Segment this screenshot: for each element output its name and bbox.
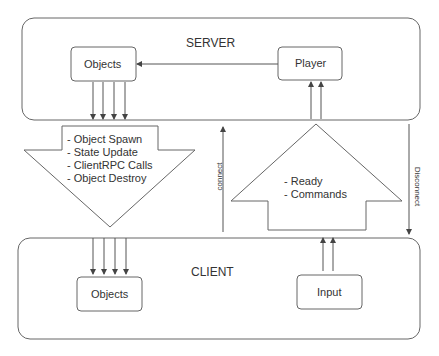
- server-player-label: Player: [295, 57, 326, 69]
- down-item: - Object Spawn: [67, 133, 153, 146]
- server-label: SERVER: [186, 36, 235, 50]
- client-objects-label: Objects: [91, 288, 128, 300]
- up-item: - Ready: [284, 175, 347, 188]
- up-arrow-list: - Ready - Commands: [284, 175, 347, 201]
- down-arrow-list: - Object Spawn - State Update - ClientRP…: [67, 133, 153, 185]
- down-item: - Object Destroy: [67, 172, 153, 185]
- down-item: - ClientRPC Calls: [67, 159, 153, 172]
- disconnect-label: Disconnect: [413, 162, 422, 212]
- client-input-label: Input: [317, 286, 341, 298]
- client-label: CLIENT: [191, 265, 234, 279]
- connect-label: connect: [215, 157, 224, 197]
- server-objects-label: Objects: [84, 58, 121, 70]
- up-item: - Commands: [284, 188, 347, 201]
- down-item: - State Update: [67, 146, 153, 159]
